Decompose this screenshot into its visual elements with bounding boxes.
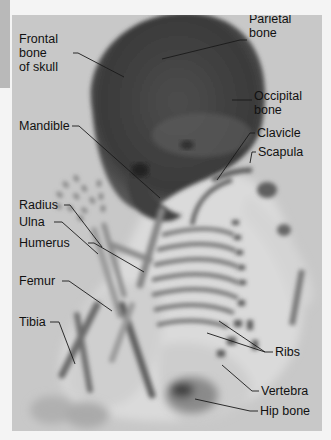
label-frontal-bone: Frontal bone of skull: [19, 32, 58, 74]
label-humerus: Humerus: [19, 236, 70, 250]
label-hip-bone: Hip bone: [260, 404, 310, 418]
label-vertebra: Vertebra: [261, 384, 308, 398]
label-mandible: Mandible: [19, 119, 70, 133]
specimen-photo-panel: Frontal bone of skull Parietal bone Occi…: [12, 15, 322, 431]
label-clavicle: Clavicle: [257, 126, 301, 140]
side-tab: [0, 0, 10, 88]
label-femur: Femur: [19, 274, 55, 288]
fetal-skeleton-illustration: [12, 15, 322, 431]
label-radius: Radius: [19, 198, 58, 212]
label-ulna: Ulna: [19, 215, 45, 229]
label-ribs: Ribs: [275, 345, 300, 359]
label-tibia: Tibia: [19, 315, 46, 329]
label-scapula: Scapula: [258, 145, 303, 159]
label-occipital-bone: Occipital bone: [254, 89, 302, 117]
label-parietal-bone: Parietal bone: [249, 15, 291, 40]
